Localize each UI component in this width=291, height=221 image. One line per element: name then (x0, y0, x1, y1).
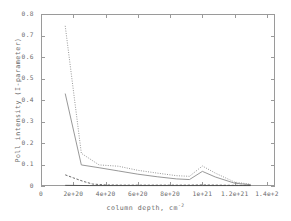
series-line (65, 26, 251, 184)
series-line (65, 94, 251, 185)
chart-figure: 00.10.20.30.40.50.60.70.8 02e+204e+206e+… (0, 0, 291, 221)
x-axis-title: column depth, cm-2 (0, 203, 291, 212)
x-axis-title-text: column depth, cm (106, 204, 178, 212)
y-axis-title: Poll intensity (I-parameter) (14, 20, 22, 180)
data-series-layer (0, 0, 291, 221)
x-axis-title-exponent: -2 (178, 203, 185, 208)
